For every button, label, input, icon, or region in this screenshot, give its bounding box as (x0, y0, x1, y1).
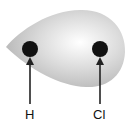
h-label: H (25, 108, 34, 121)
cl-label: Cl (93, 108, 105, 121)
h-nucleus (22, 41, 38, 57)
h-arrow (26, 57, 34, 104)
hcl-diagram (0, 0, 133, 126)
cl-nucleus (92, 41, 108, 57)
